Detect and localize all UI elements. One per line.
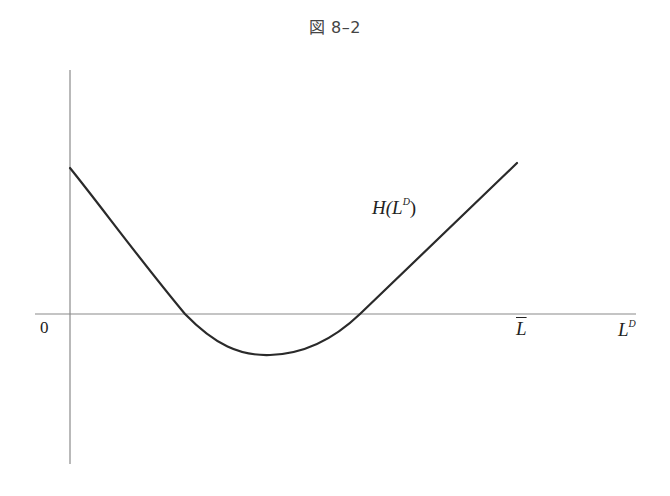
- x-axis-main: L: [618, 319, 629, 340]
- curve-label: H(LD): [372, 196, 416, 219]
- l-bar-text: L: [516, 318, 527, 339]
- x-axis-sup: D: [629, 318, 636, 329]
- curve-label-main: H(L: [372, 197, 403, 218]
- h-curve: [70, 163, 517, 355]
- origin-label: 0: [40, 318, 49, 338]
- curve-label-sup: D: [403, 196, 410, 207]
- x-axis-label: LD: [618, 318, 636, 341]
- plot-area: [0, 0, 670, 496]
- origin-text: 0: [40, 318, 49, 337]
- curve-label-close: ): [410, 197, 416, 218]
- l-bar-label: L: [516, 318, 527, 340]
